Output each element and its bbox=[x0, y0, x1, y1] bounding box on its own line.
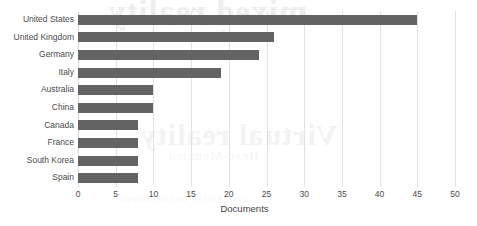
y-axis-label-spain: Spain bbox=[52, 169, 74, 187]
bar bbox=[78, 32, 274, 42]
x-tick-50: 50 bbox=[450, 189, 459, 199]
bar bbox=[78, 15, 417, 25]
plot-area bbox=[78, 11, 455, 187]
y-axis-label-south-korea: South Korea bbox=[27, 152, 74, 170]
x-tick-5: 5 bbox=[113, 189, 118, 199]
gridline-50 bbox=[455, 11, 456, 187]
x-tick-35: 35 bbox=[337, 189, 346, 199]
x-tick-0: 0 bbox=[76, 189, 81, 199]
y-axis-category-labels: United StatesUnited KingdomGermanyItalyA… bbox=[0, 11, 74, 187]
x-axis-title-label: Documents bbox=[220, 203, 268, 214]
y-axis-label-australia: Australia bbox=[41, 81, 74, 99]
bar bbox=[78, 156, 138, 166]
bar-row bbox=[78, 29, 455, 47]
y-axis-label-china: China bbox=[52, 99, 74, 117]
y-axis-label-canada: Canada bbox=[44, 117, 74, 135]
bar-row bbox=[78, 46, 455, 64]
bar-row bbox=[78, 81, 455, 99]
y-axis-label-germany: Germany bbox=[39, 46, 74, 64]
bar bbox=[78, 138, 138, 148]
bar bbox=[78, 103, 153, 113]
x-axis-tick-labels: 05101520253035404550 bbox=[78, 189, 455, 203]
bar bbox=[78, 50, 259, 60]
y-axis-label-france: France bbox=[48, 134, 74, 152]
bar-row bbox=[78, 152, 455, 170]
bar-chart: mixed reality Augmented Virtual reality … bbox=[0, 0, 477, 226]
bar-series bbox=[78, 11, 455, 187]
x-tick-25: 25 bbox=[262, 189, 271, 199]
x-tick-45: 45 bbox=[413, 189, 422, 199]
bar bbox=[78, 85, 153, 95]
bar-row bbox=[78, 64, 455, 82]
bar bbox=[78, 68, 221, 78]
x-tick-40: 40 bbox=[375, 189, 384, 199]
bar-row bbox=[78, 134, 455, 152]
bar-row bbox=[78, 169, 455, 187]
bar-row bbox=[78, 11, 455, 29]
y-axis-label-united-kingdom: United Kingdom bbox=[14, 29, 74, 47]
x-tick-15: 15 bbox=[186, 189, 195, 199]
bar bbox=[78, 120, 138, 130]
y-axis-label-united-states: United States bbox=[23, 11, 74, 29]
x-tick-20: 20 bbox=[224, 189, 233, 199]
x-axis-title: Documents bbox=[0, 203, 477, 214]
y-axis-label-italy: Italy bbox=[58, 64, 74, 82]
bar bbox=[78, 173, 138, 183]
bar-row bbox=[78, 99, 455, 117]
x-tick-10: 10 bbox=[149, 189, 158, 199]
bar-row bbox=[78, 117, 455, 135]
x-tick-30: 30 bbox=[299, 189, 308, 199]
